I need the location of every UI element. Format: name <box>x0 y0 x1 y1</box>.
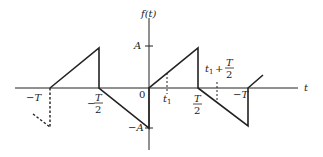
label-A: A <box>133 40 141 51</box>
svg-text:2: 2 <box>194 105 200 116</box>
svg-text:1: 1 <box>167 98 171 106</box>
svg-text:2: 2 <box>226 69 232 80</box>
x-axis-label: t <box>304 82 309 93</box>
label-t1-plus-half-T: t 1 + T 2 <box>205 57 234 80</box>
label-zero: 0 <box>139 89 145 100</box>
svg-text:T: T <box>226 57 234 68</box>
label-neg-A: −A <box>128 122 144 133</box>
label-half-T: T 2 <box>193 93 202 116</box>
waveform-diagram: f(t) t A −A −T − T 2 0 t 1 T 2 t 1 + T 2… <box>0 0 323 157</box>
svg-text:+: + <box>215 63 223 74</box>
svg-text:1: 1 <box>209 68 213 76</box>
label-neg-T-right: −T <box>233 89 249 100</box>
y-axis-label: f(t) <box>140 8 157 19</box>
svg-text:2: 2 <box>95 104 101 115</box>
label-neg-half-T: − T 2 <box>87 92 103 115</box>
label-neg-T-left: −T <box>26 92 42 103</box>
label-t1: t 1 <box>163 93 171 106</box>
svg-text:T: T <box>95 92 103 103</box>
svg-text:T: T <box>194 93 202 104</box>
